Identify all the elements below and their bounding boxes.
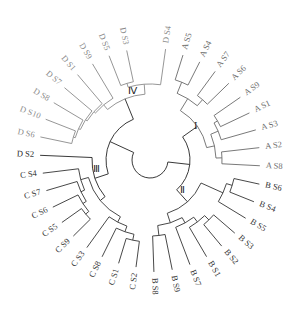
leaf-label: C S6 [30,204,49,220]
cluster-label-II: Ⅱ [180,184,185,195]
branch [153,236,154,272]
leaf-labels: D S4A S5A S4A S7A S6A S9A S1A S3A S2A S8… [17,24,283,294]
branch [119,238,127,263]
branch [144,84,145,94]
branch [100,197,105,201]
branch [133,234,134,240]
leaf-label: A S2 [265,139,283,151]
branch [220,113,249,127]
branch [182,218,185,223]
leaf-label: D S9 [77,41,94,61]
branch [64,88,91,111]
branch [165,234,172,269]
leaf-label: D S10 [19,104,43,121]
leaf-label: D S3 [118,26,131,45]
branch [207,146,215,148]
branch [197,71,215,95]
circular-dendrogram: D S4A S5A S4A S7A S6A S9A S1A S3A S2A S8… [0,0,297,318]
leaf-label: C S4 [19,168,38,180]
leaf-label: D S7 [44,68,64,87]
branch [81,190,85,192]
leaf-label: C S2 [127,272,139,290]
leaf-label: B S8 [150,278,161,295]
leaf-label: B S5 [249,216,269,233]
branch [81,177,89,179]
cluster-label-IV: Ⅳ [128,85,138,96]
leaf-label: B S1 [206,259,223,279]
branch [83,201,86,203]
leaf-label: A S4 [197,38,214,58]
branch-arc [132,152,168,178]
branch [222,164,260,166]
branch [78,75,103,104]
leaf-label: C S9 [53,236,72,255]
branch [218,202,245,219]
leaf-label: B S9 [170,274,183,292]
branch [176,227,190,264]
branch [40,155,92,157]
branch [125,226,127,232]
branch [189,227,206,256]
branch [87,217,109,248]
branch [109,56,121,86]
branch [46,119,76,131]
branch-arc [106,119,133,174]
leaf-label: B S6 [264,180,283,193]
branch [110,142,134,153]
branch [46,182,77,191]
leaf-label: A S1 [252,98,271,114]
branch [118,217,121,222]
leaf-label: B S4 [258,198,278,214]
branch [177,82,182,93]
branch [127,50,134,81]
branch [168,162,190,164]
leaf-label: A S6 [229,63,248,82]
branch [205,216,209,220]
branch [194,217,198,222]
branch [234,179,259,185]
branch [167,213,170,223]
branch [86,120,88,121]
leaf-label: D S8 [32,86,52,103]
branch [214,97,240,115]
leaf-label: D S1 [59,53,78,73]
leaf-label: D S6 [17,126,36,139]
branch [73,219,90,236]
branch [43,169,79,173]
branch [222,148,260,152]
branch [125,99,133,119]
branch [201,183,223,193]
leaf-label: A S7 [214,49,232,68]
branch [94,112,96,113]
dendrogram-branches [40,49,260,272]
branch [204,225,222,247]
leaf-label: B S7 [188,268,203,287]
leaf-label: C S5 [40,221,59,239]
branch [175,55,183,80]
branch [53,195,78,207]
leaf-label: C S3 [69,249,87,268]
branch [95,174,108,178]
branch [211,131,218,134]
branch [104,105,108,110]
branch [102,228,116,257]
leaf-label: C S7 [23,186,42,200]
leaf-label: D S2 [17,148,35,159]
branch [62,209,82,223]
leaf-label: A S3 [260,118,279,132]
branch [230,192,254,202]
branch [197,100,202,106]
cluster-label-III: Ⅲ [93,163,100,174]
branch [54,103,83,120]
branch [40,137,71,144]
branch [158,226,159,236]
branch [207,83,228,104]
branch [214,215,235,233]
branch [188,62,200,85]
leaf-label: D S5 [97,32,113,52]
branch [161,49,166,85]
branch [221,130,256,140]
branch [86,211,89,214]
branch [226,184,232,186]
leaf-label: A S9 [242,79,261,97]
